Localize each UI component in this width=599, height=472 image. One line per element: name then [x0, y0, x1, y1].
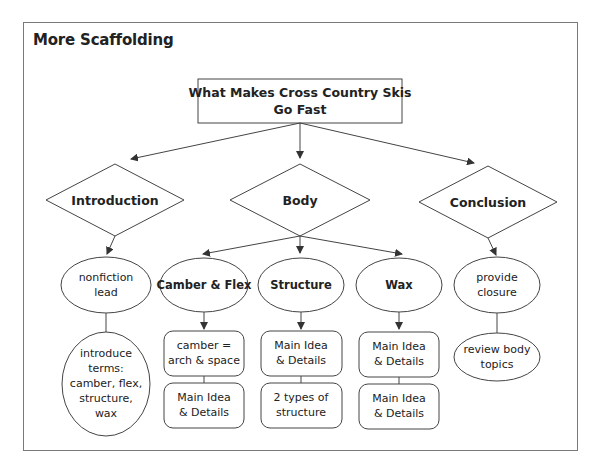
intro-oval2-line2: terms:: [88, 362, 124, 375]
edge-root-introduction: [131, 123, 300, 159]
body-topic-wax: Wax: [356, 258, 442, 312]
root-line-1: What Makes Cross Country Skis: [189, 85, 412, 100]
intro-oval2-line1: introduce: [80, 347, 132, 360]
root-line-2: Go Fast: [274, 102, 327, 117]
wax-box1: Main Idea & Details: [359, 332, 439, 377]
conclusion-oval1-line1: provide: [476, 271, 518, 284]
wax-box2-line1: Main Idea: [372, 392, 426, 405]
wax-box1-line1: Main Idea: [372, 340, 426, 353]
edge-conclusion-oval: [488, 238, 496, 255]
structure-box1-line2: & Details: [276, 354, 326, 367]
camber-box2: Main Idea & Details: [164, 383, 244, 428]
wax-box2-line2: & Details: [374, 407, 424, 420]
body-topic-structure: Structure: [258, 258, 344, 312]
intro-oval2-line3: camber, flex,: [70, 377, 142, 390]
conclusion-oval1-line2: closure: [477, 286, 517, 299]
structure-box2: 2 types of structure: [261, 383, 342, 428]
wax-label: Wax: [385, 278, 413, 292]
structure-box2-line1: 2 types of: [274, 391, 330, 404]
intro-oval2-line5: wax: [95, 407, 118, 420]
intro-oval-terms: introduce terms: camber, flex, structure…: [62, 332, 150, 436]
conclusion-oval-review: review body topics: [454, 333, 540, 381]
intro-oval1-line2: lead: [94, 286, 118, 299]
edge-body-wax: [300, 236, 402, 254]
edge-introduction-oval: [107, 236, 115, 254]
intro-oval-nonfiction: nonfiction lead: [61, 257, 151, 313]
intro-oval1-line1: nonfiction: [79, 271, 134, 284]
body-topic-camber-flex: Camber & Flex: [157, 258, 253, 312]
concept-map: What Makes Cross Country Skis Go Fast In…: [0, 0, 599, 472]
introduction-label: Introduction: [71, 193, 158, 208]
body-label: Body: [282, 193, 317, 208]
structure-box1-line1: Main Idea: [274, 339, 328, 352]
camber-box1-line1: camber =: [177, 339, 232, 352]
wax-box1-line2: & Details: [374, 355, 424, 368]
conclusion-oval2-line1: review body: [463, 343, 531, 356]
structure-label: Structure: [270, 278, 332, 292]
camber-box2-line1: Main Idea: [177, 391, 231, 404]
camber-flex-label: Camber & Flex: [157, 278, 253, 292]
conclusion-label: Conclusion: [450, 195, 526, 210]
conclusion-diamond: Conclusion: [419, 166, 557, 238]
structure-box1: Main Idea & Details: [261, 331, 342, 376]
intro-oval2-line4: structure,: [79, 392, 132, 405]
conclusion-oval-closure: provide closure: [454, 257, 540, 313]
edge-body-camber: [203, 236, 300, 254]
conclusion-oval2-line2: topics: [481, 358, 514, 371]
introduction-diamond: Introduction: [46, 164, 184, 236]
camber-box1: camber = arch & space: [164, 331, 244, 376]
wax-box2: Main Idea & Details: [359, 384, 439, 429]
camber-box2-line2: & Details: [179, 406, 229, 419]
edge-root-conclusion: [300, 123, 474, 163]
root-node: What Makes Cross Country Skis Go Fast: [189, 79, 412, 123]
camber-box1-line2: arch & space: [168, 354, 240, 367]
structure-box2-line2: structure: [276, 406, 326, 419]
body-diamond: Body: [230, 164, 370, 236]
